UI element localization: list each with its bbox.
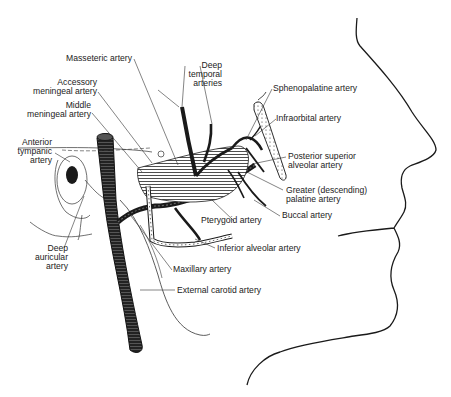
label-maxillary-artery: Maxillary artery: [173, 265, 231, 274]
label-buccal-artery: Buccal artery: [282, 211, 332, 220]
label-posterior-superior-alveolar-artery: Posterior superior alveolar artery: [288, 152, 356, 170]
label-text: artery: [10, 156, 52, 165]
label-text: Buccal artery: [282, 210, 332, 220]
label-text: Inferior alveolar artery: [217, 243, 301, 253]
label-external-carotid-artery: External carotid artery: [177, 286, 261, 295]
label-inferior-alveolar-artery: Inferior alveolar artery: [217, 244, 301, 253]
label-text: Maxillary artery: [173, 264, 231, 274]
label-text: artery: [25, 262, 68, 271]
label-anterior-tympanic-artery: Anterior tympanic artery: [10, 138, 52, 165]
label-text: Infraorbital artery: [276, 113, 341, 123]
label-text: alveolar artery: [288, 161, 356, 170]
label-text: meningeal artery: [14, 110, 91, 119]
label-middle-meningeal-artery: Middle meningeal artery: [14, 101, 91, 119]
label-text: Pterygoid artery: [201, 215, 262, 225]
label-text: meningeal artery: [20, 87, 97, 96]
label-text: arteries: [182, 79, 222, 88]
label-text: palatine artery: [286, 195, 367, 204]
label-pterygoid-artery: Pterygoid artery: [201, 216, 262, 225]
label-text: Sphenopalatine artery: [273, 83, 357, 93]
label-text: External carotid artery: [177, 285, 261, 295]
label-accessory-meningeal-artery: Accessory meningeal artery: [20, 78, 97, 96]
label-deep-temporal-arteries: Deep temporal arteries: [182, 61, 222, 88]
external-carotid-artery-shape: [97, 134, 142, 353]
label-deep-auricular-artery: Deep auricular artery: [25, 244, 68, 271]
anatomy-diagram: Masseteric artery Deep temporal arteries…: [0, 0, 451, 397]
label-sphenopalatine-artery: Sphenopalatine artery: [273, 84, 357, 93]
label-masseteric-artery: Masseteric artery: [62, 54, 132, 63]
label-greater-palatine-artery: Greater (descending) palatine artery: [286, 186, 367, 204]
label-text: Masseteric artery: [66, 53, 132, 63]
label-infraorbital-artery: Infraorbital artery: [276, 114, 341, 123]
